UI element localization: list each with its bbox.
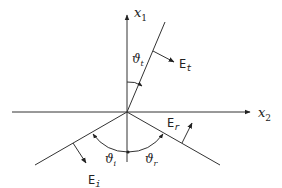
reflection-angle-label: ϑr [145, 152, 159, 168]
incidence-angle-arc [93, 134, 128, 152]
transmission-angle-label: ϑt [132, 52, 145, 68]
transmitted-field-label: Et [179, 57, 192, 73]
reflected-field-label: Er [167, 116, 180, 132]
reflection-angle-arc [128, 134, 163, 152]
x1-axis-label: x1 [134, 5, 147, 23]
incidence-angle-label: ϑi [105, 152, 117, 168]
diagram-canvas: x2 x1 Et ϑt Ei Er ϑi ϑr [0, 0, 282, 188]
arc-vertex-dot [126, 150, 129, 153]
incident-field-vector [73, 143, 86, 163]
reflected-field-vector [182, 123, 192, 143]
x2-axis-label: x2 [258, 105, 271, 123]
transmitted-field-vector [153, 51, 174, 62]
incident-field-label: Ei [88, 173, 101, 188]
transmitted-ray [127, 22, 165, 112]
